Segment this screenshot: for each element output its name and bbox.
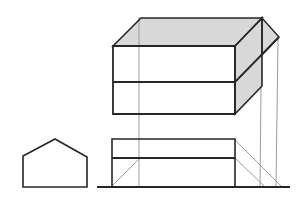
oblique-corner-flap-fill — [262, 18, 279, 55]
front-elevation-outline — [112, 139, 235, 187]
projection-line-mid — [260, 87, 261, 187]
oblique-projection-diagram — [0, 0, 306, 203]
depth-diagonal-left — [112, 159, 139, 186]
scanned-diagram-page — [0, 0, 306, 203]
projection-line-right — [276, 38, 278, 187]
oblique-front-face-fill — [113, 46, 235, 114]
depth-diagonal-upper-right — [235, 140, 281, 186]
side-elevation-pentagon — [23, 139, 87, 187]
